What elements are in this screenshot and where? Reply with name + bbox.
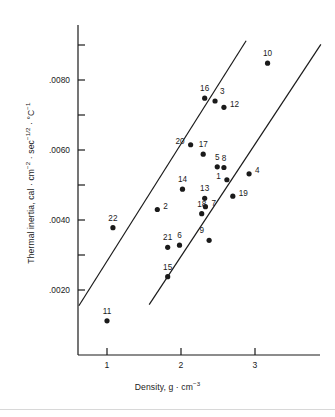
data-point-label: 17 — [183, 140, 223, 149]
data-point-label: 8 — [204, 154, 244, 163]
data-point — [224, 177, 229, 182]
y-tick-label: .0060 — [30, 145, 70, 155]
data-point-label: 20 — [145, 137, 185, 146]
data-point-label: 10 — [248, 49, 288, 58]
scatter-plot-figure: Thermal inertia, cal · cm−2 · sec−1/2 · … — [0, 0, 335, 417]
data-point-label: 15 — [148, 263, 188, 272]
data-point-label: 13 — [185, 184, 225, 193]
data-point-label: 19 — [239, 189, 248, 198]
data-point — [155, 207, 160, 212]
x-tick-label: 1 — [97, 360, 117, 370]
data-point — [207, 238, 212, 243]
data-point — [110, 225, 115, 230]
data-point — [202, 96, 207, 101]
data-point — [165, 245, 170, 250]
data-point-label: 11 — [87, 307, 127, 316]
y-tick-label: .0040 — [30, 215, 70, 225]
data-point — [265, 61, 270, 66]
data-point — [199, 211, 204, 216]
x-axis-ticks — [107, 348, 255, 355]
data-point-label: 18 — [182, 200, 222, 209]
bottom-divider — [0, 409, 335, 410]
data-point-label: 22 — [93, 214, 133, 223]
data-point-label: 14 — [162, 175, 202, 184]
data-point — [230, 194, 235, 199]
data-point-label: 2 — [163, 202, 168, 211]
y-tick-label: .0020 — [30, 285, 70, 295]
data-point-label: 16 — [185, 84, 225, 93]
data-point — [215, 164, 220, 169]
y-tick-label: .0080 — [30, 75, 70, 85]
data-point — [246, 171, 251, 176]
data-point — [104, 318, 109, 323]
data-point — [165, 274, 170, 279]
data-point — [221, 165, 226, 170]
x-tick-label: 2 — [171, 360, 191, 370]
data-point — [212, 98, 217, 103]
data-point-label: 21 — [148, 233, 188, 242]
data-point-label: 12 — [230, 100, 239, 109]
y-axis-ticks — [78, 45, 85, 290]
data-point — [221, 105, 226, 110]
data-point — [177, 243, 182, 248]
data-point-label: 4 — [255, 166, 260, 175]
x-tick-label: 3 — [245, 360, 265, 370]
